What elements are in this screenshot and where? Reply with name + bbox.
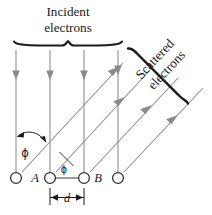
angle-label-large: ϕ	[21, 146, 29, 160]
atom-circle-1	[11, 173, 22, 184]
atom-circle-a	[45, 173, 56, 184]
incident-label-line2: electrons	[44, 20, 92, 35]
atom-label-b: B	[94, 171, 102, 185]
scattered-ray-group	[22, 63, 203, 172]
scattered-ray-3	[90, 78, 178, 172]
scattered-ray-1	[22, 63, 123, 172]
scattered-label-group: Scattered electrons	[132, 36, 188, 93]
incident-brace	[14, 41, 122, 46]
incident-label-line1: Incident	[46, 4, 90, 19]
incident-ray-3	[80, 50, 88, 172]
angle-label-small: ϕ	[61, 164, 67, 175]
atom-circle-4	[113, 173, 124, 184]
atom-label-a: A	[30, 171, 39, 185]
atom-circle-b	[79, 173, 90, 184]
incident-ray-1	[12, 50, 20, 172]
spacing-label: d	[64, 191, 71, 205]
large-angle-indicator	[17, 132, 47, 143]
incident-ray-2	[46, 50, 54, 172]
scattered-ray-4	[124, 88, 203, 172]
diagram-canvas: Incident electrons Scattered electrons A…	[0, 0, 212, 215]
electron-diffraction-figure: Incident electrons Scattered electrons A…	[0, 0, 212, 215]
